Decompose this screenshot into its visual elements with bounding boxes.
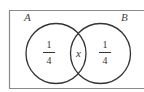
set-b-only-value: 1 4 [99, 40, 111, 66]
set-b-only-numerator: 1 [99, 40, 111, 50]
set-a-only-denominator: 4 [43, 56, 55, 66]
fraction-bar [43, 52, 55, 53]
set-b-only-denominator: 4 [99, 56, 111, 66]
set-b-label: B [121, 12, 128, 23]
fraction-bar [99, 52, 111, 53]
intersection-label: x [76, 48, 81, 59]
set-a-only-numerator: 1 [43, 40, 55, 50]
set-a-label: A [24, 12, 31, 23]
set-a-only-value: 1 4 [43, 40, 55, 66]
